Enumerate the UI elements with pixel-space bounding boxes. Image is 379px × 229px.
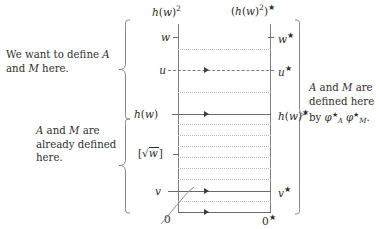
tick-left-w [173,37,179,38]
dotted-row [178,146,271,147]
row-label-w-right: w★ [278,31,294,45]
row-label-zero-right: 0★ [262,213,276,227]
annotation-left-bottom: A and M are already defined here. [36,124,132,165]
column-header-left: h(w)2 [152,4,181,18]
row-label-hw-left: h(w) [134,108,158,120]
arrow-u-dashed [168,70,274,71]
dotted-row [178,124,271,125]
tick-right-w [268,37,274,38]
curve-stroke [158,182,204,229]
annotation-right: A and M are defined here by φ★A φ★M. [309,81,379,128]
row-label-u-left: u [152,64,166,76]
column-header-right: (h(w)2)★ [231,3,275,17]
dotted-row [178,179,271,180]
dotted-row [178,49,271,50]
arrow-hw-solid [172,114,271,115]
arrowhead-hw [204,111,209,117]
arrowhead-v [204,188,209,194]
dotted-row [178,168,271,169]
tick-left-sqrtw [173,154,179,155]
row-label-v-right: v★ [278,185,291,199]
row-label-u-right: u★ [278,64,292,78]
dotted-row [178,92,271,93]
annotation-left-top: We want to define A and M here. [6,48,118,75]
row-label-w-left: w [152,31,170,43]
right-column-rail [270,24,271,213]
dotted-row [178,157,271,158]
row-label-sqrtw-left: [√w] [138,147,163,159]
left-brace-upper [117,19,131,120]
arrowhead-zero [204,209,209,215]
arrowhead-u [204,67,209,73]
row-label-hw-right: h(w)★ [278,108,309,122]
dotted-row [178,135,271,136]
